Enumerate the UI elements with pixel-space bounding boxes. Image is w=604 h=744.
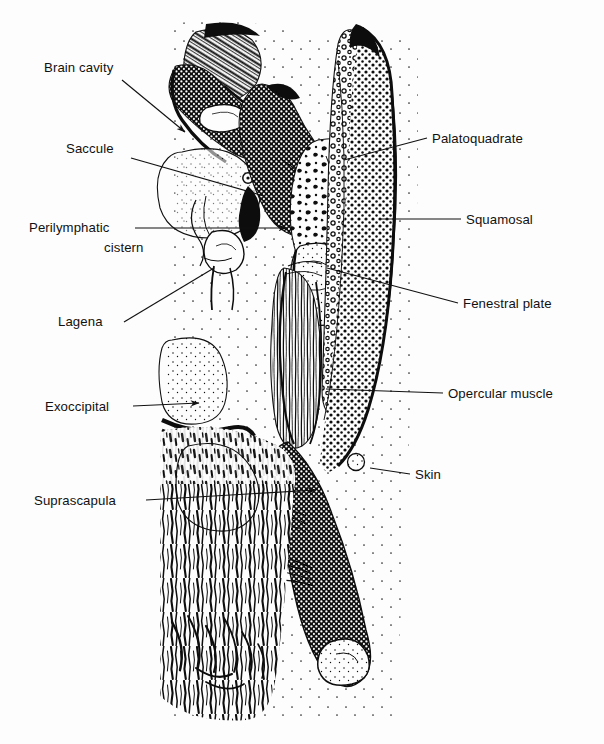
anatomical-illustration: Brain cavitySacculePerilymphaticcisternL… — [0, 0, 604, 744]
label-text-palatoquadrate: Palatoquadrate — [432, 131, 523, 146]
label-text-squamosal: Squamosal — [466, 212, 533, 227]
label-text-lagena: Lagena — [58, 314, 103, 329]
label-text-perilymphatic-cistern: Perilymphatic — [29, 220, 110, 235]
label-text-saccule: Saccule — [66, 141, 114, 156]
dermal-gland — [348, 454, 365, 471]
label-text-skin: Skin — [415, 467, 441, 482]
label-text-brain-cavity: Brain cavity — [44, 60, 114, 75]
label-text-exoccipital: Exoccipital — [45, 399, 109, 414]
label-text-suprascapula: Suprascapula — [34, 493, 116, 508]
figure-page: Brain cavitySacculePerilymphaticcisternL… — [0, 0, 604, 744]
label-text-opercular-muscle: Opercular muscle — [448, 386, 553, 401]
label-text-perilymphatic-cistern-line2: cistern — [104, 240, 144, 255]
label-text-fenestral-plate: Fenestral plate — [463, 296, 552, 311]
